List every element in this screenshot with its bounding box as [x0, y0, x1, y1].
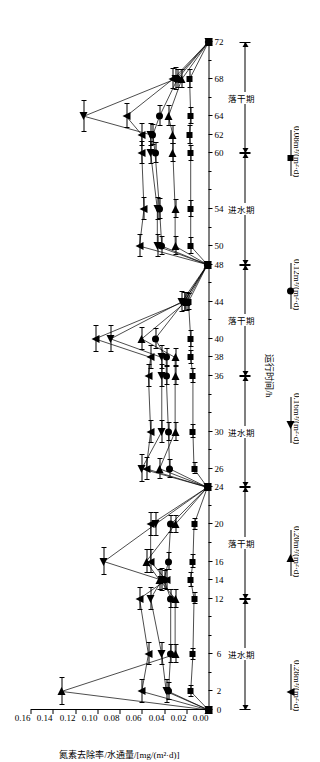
error-cap: [141, 219, 146, 220]
data-point-marker: [171, 372, 179, 380]
error-cap: [166, 125, 171, 126]
x-tick-label: 62: [214, 130, 223, 139]
error-cap: [159, 420, 164, 421]
data-point-marker: [180, 298, 188, 306]
error-cap: [155, 197, 160, 198]
x-tick-label: 40: [214, 334, 223, 343]
error-cap: [148, 368, 153, 369]
x-tick: [208, 356, 212, 357]
x-tick: [208, 431, 212, 432]
data-point-marker: [186, 132, 192, 138]
x-tick-label: 0: [216, 706, 221, 715]
data-point-marker: [106, 335, 114, 343]
error-cap: [159, 386, 164, 387]
error-cap: [173, 607, 178, 608]
error-cap: [146, 664, 151, 665]
error-cap: [166, 422, 171, 423]
data-point-marker: [187, 688, 193, 694]
data-point-marker: [162, 576, 170, 584]
x-tick: [208, 523, 212, 524]
error-cap: [188, 586, 193, 587]
error-cap: [179, 69, 184, 70]
error-cap: [188, 237, 193, 238]
error-cap: [148, 609, 153, 610]
data-point-marker: [166, 465, 173, 472]
error-cap: [139, 327, 144, 328]
x-tick-label: 36: [214, 372, 223, 381]
data-point-marker: [204, 38, 212, 46]
error-cap: [124, 103, 129, 104]
error-cap: [139, 702, 144, 703]
error-cap: [170, 88, 175, 89]
data-point-marker: [187, 577, 193, 583]
error-cap: [192, 473, 197, 474]
legend-label: 0.12m³/(m²·d): [291, 259, 299, 310]
error-cap: [155, 256, 160, 257]
error-cap: [164, 679, 169, 680]
data-point-marker: [137, 131, 145, 139]
x-tick: [208, 152, 212, 153]
data-point-marker: [177, 75, 185, 83]
error-cap: [148, 535, 153, 536]
error-cap: [155, 234, 160, 235]
data-point-marker: [168, 149, 176, 157]
x-tick-label: 72: [214, 38, 223, 47]
data-point-marker: [171, 520, 179, 528]
data-point-marker: [153, 242, 161, 250]
x-tick: [208, 653, 212, 654]
legend-item[interactable]: 0.28m³/(m²·d): [282, 576, 299, 710]
x-tick: [208, 245, 212, 246]
error-cap: [188, 160, 193, 161]
y-tick-label: 0.04: [148, 714, 164, 723]
legend-item[interactable]: 0.20m³/(m²·d): [282, 443, 299, 577]
error-cap: [164, 348, 169, 349]
data-point-marker: [171, 242, 179, 250]
legend-label: 0.28m³/(m²·d): [291, 660, 299, 711]
phase-cap: [239, 264, 250, 265]
data-point-marker: [203, 261, 211, 269]
data-point-marker: [144, 650, 152, 658]
error-cap: [173, 515, 178, 516]
phase-cap: [239, 152, 250, 153]
error-cap: [188, 330, 193, 331]
error-cap: [137, 587, 142, 588]
error-cap: [124, 127, 129, 128]
data-point-marker: [91, 335, 99, 343]
error-cap: [164, 384, 169, 385]
error-cap: [139, 481, 144, 482]
x-tick-label: 14: [214, 576, 223, 585]
data-point-marker: [191, 466, 197, 472]
data-point-marker: [137, 335, 145, 343]
legend-item[interactable]: 0.12m³/(m²·d): [282, 176, 299, 310]
error-cap: [188, 572, 193, 573]
error-cap: [188, 696, 193, 697]
error-cap: [157, 105, 162, 106]
error-cap: [173, 365, 178, 366]
error-cap: [157, 478, 162, 479]
error-cap: [188, 363, 193, 364]
legend-item[interactable]: 0.08m³/(m²·d): [282, 42, 299, 176]
error-cap: [164, 589, 169, 590]
data-point-marker: [57, 687, 65, 695]
data-point-marker: [146, 520, 154, 528]
data-point-marker: [164, 112, 172, 120]
legend-item[interactable]: 0.16m³/(m²·d): [282, 309, 299, 443]
x-tick: [208, 301, 212, 302]
error-cap: [173, 199, 178, 200]
error-cap: [157, 589, 162, 590]
series-line: [61, 42, 208, 710]
data-point-marker: [157, 650, 165, 658]
x-tick: [208, 338, 212, 339]
error-cap: [179, 87, 184, 88]
error-cap: [187, 125, 192, 126]
data-point-marker: [189, 429, 195, 435]
x-tick: [208, 598, 212, 599]
error-cap: [137, 609, 142, 610]
data-point-marker: [186, 76, 192, 82]
x-tick-label: 64: [214, 112, 223, 121]
data-point-marker: [155, 465, 163, 473]
series-lines: [30, 42, 208, 710]
error-cap: [173, 589, 178, 590]
x-tick: [208, 561, 212, 562]
phase-band: 进水期: [236, 376, 252, 487]
